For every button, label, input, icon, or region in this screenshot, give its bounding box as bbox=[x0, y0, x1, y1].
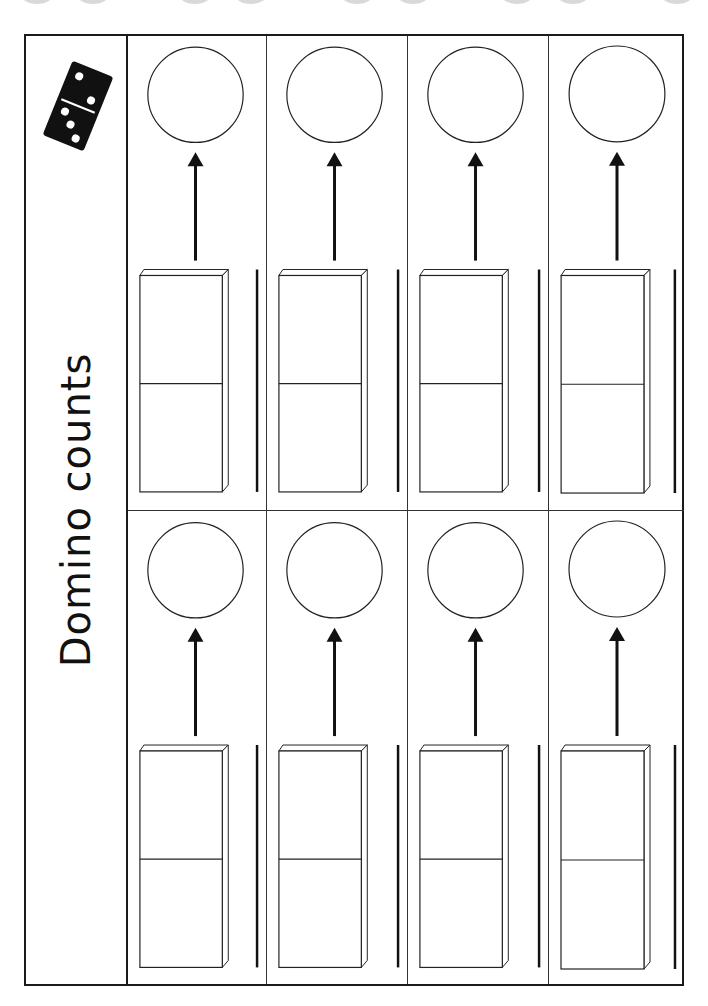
domino-box-top bbox=[420, 270, 508, 276]
binder-holes bbox=[0, 0, 708, 6]
domino-cell-top-3 bbox=[408, 36, 549, 511]
cell-drawing bbox=[267, 511, 407, 984]
answer-circle[interactable] bbox=[428, 47, 523, 142]
cell-drawing bbox=[128, 511, 266, 984]
cell-drawing bbox=[267, 36, 407, 510]
arrow-up-icon bbox=[327, 152, 343, 166]
domino-cell-bottom-2 bbox=[267, 511, 408, 984]
binder-hole bbox=[396, 0, 430, 4]
arrow-up-icon bbox=[188, 152, 204, 166]
cell-drawing bbox=[408, 36, 548, 510]
answer-circle[interactable] bbox=[569, 521, 665, 617]
domino-box-side bbox=[361, 745, 367, 967]
page-title: Domino counts bbox=[53, 353, 99, 668]
domino-box-top bbox=[140, 270, 228, 276]
domino-cell-top-4 bbox=[549, 36, 684, 511]
domino-box-top bbox=[561, 270, 650, 276]
domino-cell-bottom-4 bbox=[549, 511, 684, 984]
binder-hole bbox=[76, 0, 110, 4]
answer-circle[interactable] bbox=[287, 47, 382, 142]
domino-box-side bbox=[222, 270, 228, 492]
binder-hole bbox=[660, 0, 694, 4]
cell-drawing bbox=[408, 511, 548, 984]
domino-cell-bottom-3 bbox=[408, 511, 549, 984]
binder-hole bbox=[178, 0, 212, 4]
answer-circle[interactable] bbox=[569, 46, 665, 142]
domino-cell-top-1 bbox=[128, 36, 267, 511]
domino-grid bbox=[128, 36, 682, 984]
domino-box-side bbox=[644, 270, 650, 494]
binder-hole bbox=[500, 0, 534, 4]
binder-hole bbox=[234, 0, 268, 4]
arrow-up-icon bbox=[468, 628, 484, 642]
worksheet: Domino counts bbox=[24, 34, 684, 986]
answer-circle[interactable] bbox=[428, 523, 523, 618]
arrow-up-icon bbox=[609, 152, 625, 166]
domino-box-side bbox=[502, 270, 508, 492]
answer-circle[interactable] bbox=[148, 523, 243, 618]
binder-hole bbox=[340, 0, 374, 4]
domino-box-top bbox=[420, 745, 508, 751]
arrow-up-icon bbox=[327, 628, 343, 642]
domino-icon bbox=[38, 56, 118, 156]
domino-cell-top-2 bbox=[267, 36, 408, 511]
arrow-up-icon bbox=[188, 628, 204, 642]
domino-box-side bbox=[502, 745, 508, 967]
arrow-up-icon bbox=[468, 152, 484, 166]
title-column: Domino counts bbox=[26, 36, 128, 984]
cell-drawing bbox=[549, 511, 684, 984]
domino-box-top bbox=[279, 745, 367, 751]
domino-box-side bbox=[222, 745, 228, 967]
cell-drawing bbox=[549, 36, 684, 510]
answer-circle[interactable] bbox=[287, 523, 382, 618]
domino-box-top bbox=[561, 745, 650, 751]
domino-box-top bbox=[279, 270, 367, 276]
arrow-up-icon bbox=[609, 627, 625, 641]
cell-drawing bbox=[128, 36, 266, 510]
binder-hole bbox=[556, 0, 590, 4]
domino-box-side bbox=[361, 270, 367, 492]
answer-circle[interactable] bbox=[148, 47, 243, 142]
domino-cell-bottom-1 bbox=[128, 511, 267, 984]
binder-hole bbox=[20, 0, 54, 4]
domino-box-top bbox=[140, 745, 228, 751]
domino-box-side bbox=[644, 745, 650, 969]
